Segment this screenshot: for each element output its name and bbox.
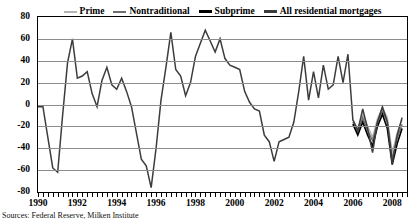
- x-tick-label: 1998: [175, 199, 215, 209]
- x-minor-tick: [171, 193, 172, 197]
- x-minor-tick: [161, 193, 162, 197]
- y-tick-label: 0: [2, 100, 30, 110]
- x-minor-tick: [328, 193, 329, 197]
- x-minor-tick: [250, 193, 251, 197]
- x-minor-tick: [284, 193, 285, 197]
- x-minor-tick: [402, 193, 403, 197]
- x-minor-tick: [136, 193, 137, 197]
- source-note: Sources: Federal Reserve, Milken Institu…: [2, 212, 139, 220]
- chart-figure: PrimeNontraditionalSubprimeAll residenti…: [0, 0, 417, 224]
- x-minor-tick: [220, 193, 221, 197]
- x-minor-tick: [373, 193, 374, 197]
- x-minor-tick: [146, 193, 147, 197]
- y-tick-label: -80: [2, 187, 30, 197]
- x-minor-tick: [77, 193, 78, 197]
- x-minor-tick: [377, 193, 378, 197]
- x-minor-tick: [176, 193, 177, 197]
- x-minor-tick: [122, 193, 123, 197]
- x-minor-tick: [68, 193, 69, 197]
- x-minor-tick: [225, 193, 226, 197]
- x-minor-tick: [274, 193, 275, 197]
- x-minor-tick: [289, 193, 290, 197]
- x-tick-label: 2006: [333, 199, 373, 209]
- x-minor-tick: [102, 193, 103, 197]
- x-minor-tick: [82, 193, 83, 197]
- x-minor-tick: [210, 193, 211, 197]
- x-minor-tick: [318, 193, 319, 197]
- x-minor-tick: [92, 193, 93, 197]
- x-minor-tick: [382, 193, 383, 197]
- x-minor-tick: [358, 193, 359, 197]
- x-minor-tick: [392, 193, 393, 197]
- x-tick-label: 1994: [97, 199, 137, 209]
- x-minor-tick: [309, 193, 310, 197]
- y-tick-label: -40: [2, 143, 30, 153]
- x-minor-tick: [397, 193, 398, 197]
- x-minor-tick: [304, 193, 305, 197]
- x-minor-tick: [63, 193, 64, 197]
- x-minor-tick: [368, 193, 369, 197]
- y-tick-label: -60: [2, 165, 30, 175]
- x-minor-tick: [245, 193, 246, 197]
- x-minor-tick: [53, 193, 54, 197]
- x-minor-tick: [97, 193, 98, 197]
- y-tick-label: 60: [2, 34, 30, 44]
- x-minor-tick: [181, 193, 182, 197]
- x-tick-label: 2008: [372, 199, 412, 209]
- x-minor-tick: [156, 193, 157, 197]
- x-minor-tick: [333, 193, 334, 197]
- y-tick-label: 20: [2, 78, 30, 88]
- x-tick-label: 2002: [254, 199, 294, 209]
- y-axis: -80-60-40-20020406080: [0, 0, 417, 224]
- x-minor-tick: [186, 193, 187, 197]
- x-minor-tick: [230, 193, 231, 197]
- x-minor-tick: [48, 193, 49, 197]
- x-minor-tick: [43, 193, 44, 197]
- x-minor-tick: [348, 193, 349, 197]
- x-tick-label: 1996: [136, 199, 176, 209]
- x-minor-tick: [191, 193, 192, 197]
- x-minor-tick: [407, 193, 408, 197]
- x-tick-label: 2000: [215, 199, 255, 209]
- x-minor-tick: [387, 193, 388, 197]
- x-axis-minor-ticks: [37, 193, 408, 198]
- x-minor-tick: [166, 193, 167, 197]
- x-minor-tick: [294, 193, 295, 197]
- x-minor-tick: [117, 193, 118, 197]
- x-minor-tick: [323, 193, 324, 197]
- x-minor-tick: [127, 193, 128, 197]
- x-minor-tick: [235, 193, 236, 197]
- x-minor-tick: [363, 193, 364, 197]
- x-minor-tick: [205, 193, 206, 197]
- x-minor-tick: [353, 193, 354, 197]
- x-minor-tick: [269, 193, 270, 197]
- x-tick-label: 2004: [294, 199, 334, 209]
- x-minor-tick: [264, 193, 265, 197]
- x-minor-tick: [58, 193, 59, 197]
- x-minor-tick: [38, 193, 39, 197]
- y-tick-label: 80: [2, 12, 30, 22]
- x-minor-tick: [151, 193, 152, 197]
- x-minor-tick: [87, 193, 88, 197]
- x-tick-label: 1990: [18, 199, 58, 209]
- x-minor-tick: [299, 193, 300, 197]
- x-minor-tick: [343, 193, 344, 197]
- x-minor-tick: [279, 193, 280, 197]
- y-tick-label: 40: [2, 56, 30, 66]
- x-minor-tick: [112, 193, 113, 197]
- y-tick-label: -20: [2, 121, 30, 131]
- x-minor-tick: [259, 193, 260, 197]
- x-minor-tick: [195, 193, 196, 197]
- x-minor-tick: [254, 193, 255, 197]
- x-minor-tick: [240, 193, 241, 197]
- x-minor-tick: [338, 193, 339, 197]
- x-minor-tick: [215, 193, 216, 197]
- x-minor-tick: [314, 193, 315, 197]
- x-tick-label: 1992: [57, 199, 97, 209]
- x-minor-tick: [72, 193, 73, 197]
- x-minor-tick: [200, 193, 201, 197]
- x-minor-tick: [107, 193, 108, 197]
- x-minor-tick: [141, 193, 142, 197]
- x-minor-tick: [131, 193, 132, 197]
